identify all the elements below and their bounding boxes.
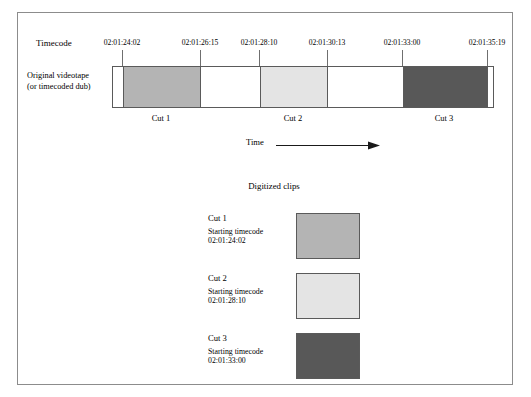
digitized-clip-row: Cut 1Starting timecode02:01:24:02 — [208, 213, 438, 259]
digitized-clip-title: Cut 3 — [208, 333, 294, 344]
timecode-value: 02:01:26:15 — [182, 38, 219, 47]
tape-cut-segment — [123, 67, 201, 107]
tape-cut-segment — [403, 67, 488, 107]
starting-timecode-value: 02:01:28:10 — [208, 296, 294, 305]
time-arrow-icon — [276, 141, 380, 150]
tape-cut-label: Cut 1 — [152, 113, 171, 123]
starting-timecode-value: 02:01:24:02 — [208, 236, 294, 245]
timecode-value: 02:01:30:13 — [309, 38, 346, 47]
starting-timecode-value: 02:01:33:00 — [208, 356, 294, 365]
digitized-clip-timecode: Starting timecode02:01:24:02 — [208, 227, 294, 246]
timecode-value: 02:01:35:19 — [469, 38, 506, 47]
starting-timecode-label: Starting timecode — [208, 227, 294, 236]
digitized-clips-heading: Digitized clips — [248, 181, 300, 191]
timecode-value: 02:01:28:10 — [241, 38, 278, 47]
original-videotape-caption-line1: Original videotape — [27, 71, 91, 82]
tape-gap-segment — [328, 67, 403, 107]
time-axis-label: Time — [246, 137, 264, 147]
original-videotape-caption: Original videotape (or timecoded dub) — [27, 71, 91, 92]
videotape-bar — [112, 66, 494, 108]
tape-gap-segment — [201, 67, 260, 107]
digitized-clip-text: Cut 3Starting timecode02:01:33:00 — [208, 333, 294, 366]
digitized-clip-timecode: Starting timecode02:01:33:00 — [208, 347, 294, 366]
digitized-clip-swatch — [296, 333, 360, 379]
timecode-header-label: Timecode — [36, 38, 72, 48]
timecode-value: 02:01:24:02 — [104, 38, 141, 47]
original-videotape-caption-line2: (or timecoded dub) — [27, 82, 91, 93]
tape-cut-segment — [260, 67, 328, 107]
starting-timecode-label: Starting timecode — [208, 287, 294, 296]
digitized-clip-timecode: Starting timecode02:01:28:10 — [208, 287, 294, 306]
digitized-clip-swatch — [296, 213, 360, 259]
tape-cut-label: Cut 2 — [284, 113, 303, 123]
starting-timecode-label: Starting timecode — [208, 347, 294, 356]
tape-cut-label: Cut 3 — [435, 113, 454, 123]
digitized-clip-row: Cut 2Starting timecode02:01:28:10 — [208, 273, 438, 319]
digitized-clip-title: Cut 1 — [208, 213, 294, 224]
digitized-clip-text: Cut 1Starting timecode02:01:24:02 — [208, 213, 294, 246]
digitized-clip-text: Cut 2Starting timecode02:01:28:10 — [208, 273, 294, 306]
digitized-clip-swatch — [296, 273, 360, 319]
digitized-clip-row: Cut 3Starting timecode02:01:33:00 — [208, 333, 438, 379]
digitized-clip-title: Cut 2 — [208, 273, 294, 284]
timecode-value: 02:01:33:00 — [384, 38, 421, 47]
figure-canvas: Timecode 02:01:24:0202:01:26:1502:01:28:… — [0, 0, 531, 397]
